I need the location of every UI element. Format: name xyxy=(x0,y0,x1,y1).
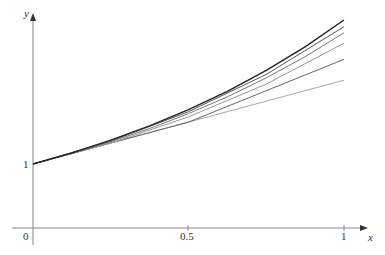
x-tick-label-1: 1 xyxy=(341,230,347,242)
origin-label: 0 xyxy=(23,230,29,242)
y-axis-label: y xyxy=(23,7,29,19)
x-axis-label: x xyxy=(367,231,373,243)
x-tick-label-0.5: 0.5 xyxy=(180,230,194,242)
series-approx-8 xyxy=(33,33,344,164)
x-axis-arrow-icon xyxy=(360,225,368,231)
series-layer xyxy=(33,20,344,164)
series-exact xyxy=(33,20,344,164)
chart-canvas: y x 0 0.5 1 1 xyxy=(0,0,385,255)
y-axis-arrow-icon xyxy=(30,13,36,21)
series-approx-16 xyxy=(33,27,344,164)
y-tick-label-1: 1 xyxy=(23,158,29,170)
